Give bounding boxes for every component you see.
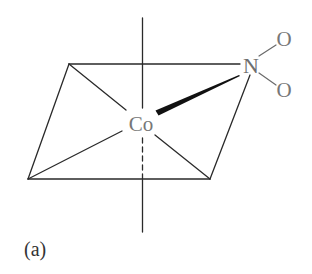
- atom-label-o-bottom: O: [276, 78, 291, 102]
- bond-co-bottom-right: [155, 135, 210, 179]
- bond-co-top-left: [69, 64, 126, 110]
- atom-label-co: Co: [129, 112, 154, 136]
- wedge-bond-co-n: [156, 75, 241, 116]
- atom-label-n: N: [243, 53, 259, 78]
- atom-label-o-top: O: [276, 27, 291, 51]
- bond-n-o-top: [259, 45, 276, 56]
- panel-label: (a): [24, 238, 46, 261]
- plane-edge-right: [210, 75, 250, 179]
- structure-svg: Co N O O (a): [0, 0, 312, 274]
- nitro-cobalt-complex-diagram: Co N O O (a): [0, 0, 312, 274]
- bond-n-o-bottom: [259, 73, 276, 85]
